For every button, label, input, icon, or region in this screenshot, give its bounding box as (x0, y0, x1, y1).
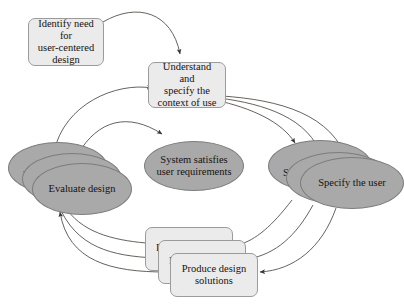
edge-specify-user-to-produce-design-3 (260, 208, 336, 272)
node-evaluate-design-label: Evaluate design (43, 183, 122, 195)
node-identify-need[interactable]: Identify need for user-centered design (28, 18, 104, 66)
node-system-satisfies-label: System satisfies user requirements (151, 154, 238, 178)
edge-specify-user-to-produce-design-1 (238, 200, 292, 245)
node-understand-context[interactable]: Understand and specify the context of us… (148, 62, 226, 108)
edge-understand-context-to-specify-user-1 (215, 100, 295, 143)
edge-specify-user-to-produce-design-2 (248, 205, 313, 259)
node-specify-user-label: Specify the user (312, 177, 392, 189)
node-system-satisfies[interactable]: System satisfies user requirements (144, 141, 244, 191)
node-evaluate-design[interactable]: Evaluate design (32, 163, 132, 215)
edge-identify-need-to-understand-context (103, 12, 180, 54)
node-produce-design[interactable]: Produce design solutions (170, 253, 258, 297)
node-produce-design-label: Produce design solutions (176, 263, 252, 287)
node-understand-context-label: Understand and specify the context of us… (149, 61, 225, 108)
node-specify-user[interactable]: Specify the user (300, 157, 404, 209)
node-identify-need-label: Identify need for user-centered design (29, 18, 103, 65)
